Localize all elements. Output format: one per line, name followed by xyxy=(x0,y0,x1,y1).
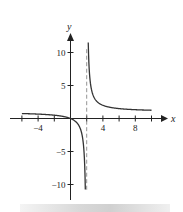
x-tick-label: 4 xyxy=(101,123,106,133)
y-tick-label: 5 xyxy=(61,81,66,91)
curve-right-branch xyxy=(88,42,151,110)
x-tick-labels: −448 xyxy=(33,123,138,133)
scan-edge-shadow xyxy=(20,204,170,212)
x-axis-arrow-icon xyxy=(161,115,168,122)
function-graph: −448 105−5−10 x y xyxy=(0,0,183,212)
y-tick-label: −5 xyxy=(56,147,66,157)
x-tick-label: −4 xyxy=(33,123,43,133)
y-axis-arrow-icon xyxy=(67,33,74,41)
y-axis-label: y xyxy=(66,21,72,32)
curve-left-branch xyxy=(22,114,85,190)
x-tick-label: 8 xyxy=(133,123,138,133)
y-tick-label: 10 xyxy=(57,48,67,58)
x-axis-label: x xyxy=(170,113,176,124)
y-tick-label: −10 xyxy=(51,180,66,190)
